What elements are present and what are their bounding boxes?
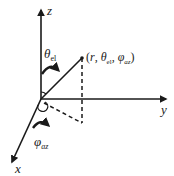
azimuth-angle-label: φaz: [34, 134, 49, 151]
point-coordinate-label: (r, θel, φaz): [86, 50, 135, 66]
azimuth-rotation-arrow-icon: [33, 122, 48, 128]
x-axis: [12, 99, 41, 162]
y-axis-label: y: [159, 102, 167, 117]
radius-vector: [41, 58, 82, 99]
xy-plane-projection-line: [44, 103, 82, 123]
elevation-angle-label: θel: [44, 46, 57, 63]
z-axis-label: z: [46, 3, 52, 18]
x-axis-label: x: [14, 161, 21, 176]
elevation-rotation-arrow-icon: [42, 67, 58, 74]
spherical-coordinates-diagram: z y x θel φaz (r, θel, φaz): [0, 0, 174, 176]
